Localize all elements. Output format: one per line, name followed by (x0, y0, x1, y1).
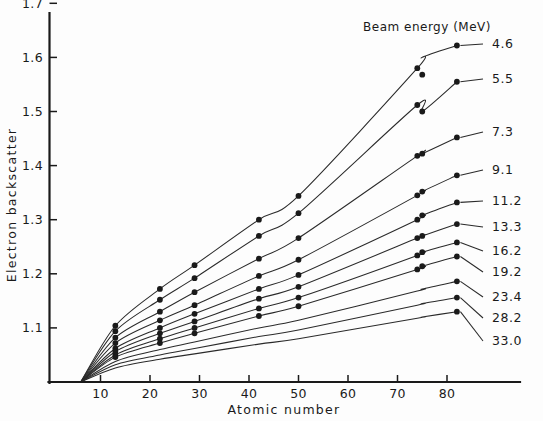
data-point (414, 235, 420, 241)
backscatter-chart-figure: 1.11.21.31.41.51.61.7 1020304050607080 4… (0, 0, 543, 421)
legend-leader-line (460, 224, 483, 227)
data-point (296, 295, 302, 301)
data-point (157, 317, 163, 323)
legend-label-28-2: 28.2 (492, 310, 522, 325)
data-point (419, 233, 425, 239)
y-tick-marks (50, 3, 58, 328)
data-point (112, 328, 118, 334)
data-point (454, 79, 460, 85)
legend-leader-line (460, 170, 483, 175)
data-point (192, 319, 198, 325)
data-point (414, 267, 420, 273)
legend-label-23-4: 23.4 (492, 289, 522, 304)
legend-label-5-5: 5.5 (492, 71, 513, 86)
x-tick-label: 50 (290, 386, 307, 401)
series-curve-16-2 (81, 242, 457, 382)
series-curve-4-6 (81, 46, 457, 383)
data-point (414, 192, 420, 198)
y-tick-label: 1.2 (22, 266, 43, 281)
data-point (112, 340, 118, 346)
legend-labels-group: 4.65.57.39.111.213.316.219.223.428.233.0 (492, 36, 522, 348)
y-tick-label: 1.1 (22, 320, 43, 335)
legend-title: Beam energy (MeV) (363, 20, 491, 34)
data-point (112, 354, 118, 360)
data-point (414, 102, 420, 108)
data-point (256, 233, 262, 239)
legend-label-33-0: 33.0 (492, 333, 522, 348)
series-curve-7-3 (81, 137, 457, 382)
data-point (454, 240, 460, 246)
data-point (419, 72, 425, 78)
x-tick-label: 10 (92, 386, 109, 401)
data-point (419, 249, 425, 255)
data-point (157, 325, 163, 331)
data-point (256, 217, 262, 223)
data-point (256, 313, 262, 319)
legend-leader-line (460, 242, 483, 251)
legend-label-9-1: 9.1 (492, 162, 513, 177)
data-point (157, 297, 163, 303)
x-tick-label: 20 (142, 386, 159, 401)
data-point (454, 278, 460, 284)
x-tick-labels: 1020304050607080 (92, 386, 455, 401)
data-point (192, 330, 198, 336)
legend-leader-line (460, 298, 483, 318)
data-point (192, 275, 198, 281)
data-point (192, 325, 198, 331)
data-point (296, 193, 302, 199)
legend-label-19-2: 19.2 (492, 264, 522, 279)
legend-leader-line (460, 201, 483, 202)
series-curve-13-3 (81, 224, 457, 382)
data-point (419, 151, 425, 157)
y-axis-title: Electron backscatter (4, 128, 19, 283)
data-point (414, 217, 420, 223)
data-point (454, 199, 460, 205)
data-point (414, 65, 420, 71)
x-tick-label: 80 (439, 386, 456, 401)
series-curve-9-1 (81, 175, 457, 382)
x-tick-label: 30 (191, 386, 208, 401)
legend-leader-line (460, 312, 483, 341)
chart-plot-area: 1.11.21.31.41.51.61.7 1020304050607080 4… (0, 0, 543, 421)
data-point (414, 153, 420, 159)
data-point (296, 210, 302, 216)
data-point (112, 335, 118, 341)
data-point (157, 340, 163, 346)
x-tick-label: 40 (241, 386, 258, 401)
legend-leader-line (460, 44, 483, 46)
data-point (256, 286, 262, 292)
legend-leader-line (460, 281, 483, 297)
leader-lines-group (460, 44, 483, 341)
data-point (419, 212, 425, 218)
data-point (419, 189, 425, 195)
x-axis-title: Atomic number (227, 402, 340, 417)
series-curve-33-0 (81, 312, 457, 382)
data-point (256, 306, 262, 312)
legend-label-13-3: 13.3 (492, 219, 522, 234)
y-tick-label: 1.6 (22, 50, 43, 65)
data-point (454, 295, 460, 301)
data-point (419, 109, 425, 115)
data-point (256, 273, 262, 279)
data-point (157, 330, 163, 336)
data-point (454, 172, 460, 178)
y-tick-labels: 1.11.21.31.41.51.61.7 (22, 0, 43, 335)
data-point (256, 256, 262, 262)
datapoints-group (112, 43, 459, 360)
data-point (419, 263, 425, 269)
data-point (454, 254, 460, 260)
x-tick-label: 70 (389, 386, 406, 401)
data-point (454, 309, 460, 315)
x-tick-label: 60 (340, 386, 357, 401)
data-point (454, 221, 460, 227)
data-point (192, 302, 198, 308)
y-tick-label: 1.4 (22, 158, 43, 173)
data-point (192, 289, 198, 295)
data-point (296, 284, 302, 290)
data-point (157, 309, 163, 315)
data-point (454, 43, 460, 49)
y-tick-label: 1.3 (22, 212, 43, 227)
data-point (192, 262, 198, 268)
y-tick-label: 1.7 (22, 0, 43, 11)
data-point (192, 311, 198, 317)
